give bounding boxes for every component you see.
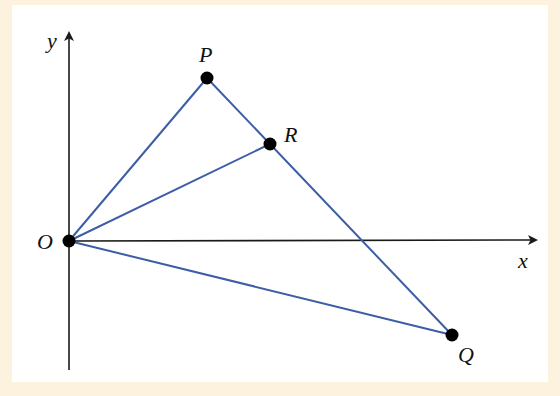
point-q (446, 329, 459, 342)
point-p-label: P (199, 44, 212, 66)
segment-or (69, 144, 270, 241)
segment-oq (69, 241, 452, 335)
point-r (264, 138, 277, 151)
x-axis-label: x (518, 250, 528, 272)
segment-op (69, 78, 207, 241)
point-o (63, 235, 76, 248)
point-p (201, 72, 214, 85)
point-q-label: Q (458, 344, 474, 366)
vector-diagram (0, 0, 560, 396)
point-r-label: R (284, 124, 297, 146)
segment-pq (207, 78, 452, 335)
y-axis-label: y (47, 30, 57, 52)
x-axis (69, 240, 536, 241)
origin-label: O (37, 231, 53, 253)
